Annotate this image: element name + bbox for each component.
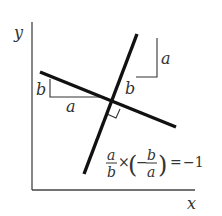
- frac1-numerator: a: [107, 147, 115, 163]
- perpendicular-slopes-diagram: y x b a a b a b × ( − b a ) = −1: [0, 0, 222, 216]
- close-paren: ): [158, 151, 167, 179]
- frac2-denominator: a: [147, 164, 155, 180]
- result-value: −1: [183, 154, 204, 170]
- slope-product-equation: a b × ( − b a ) = −1: [106, 147, 204, 180]
- right-triangle-a-label: a: [161, 49, 171, 68]
- minus-sign: −: [136, 154, 148, 170]
- equals-sign: =: [170, 154, 182, 170]
- y-axis-label: y: [13, 23, 24, 42]
- right-triangle-b-label: b: [125, 79, 135, 98]
- frac1-denominator: b: [107, 164, 116, 180]
- x-axis-label: x: [187, 194, 196, 213]
- left-triangle-b-label: b: [36, 80, 46, 99]
- right-slope-triangle: [136, 38, 157, 77]
- left-triangle-a-label: a: [66, 97, 76, 116]
- negative-slope-line: [40, 72, 176, 127]
- frac2-numerator: b: [147, 147, 156, 163]
